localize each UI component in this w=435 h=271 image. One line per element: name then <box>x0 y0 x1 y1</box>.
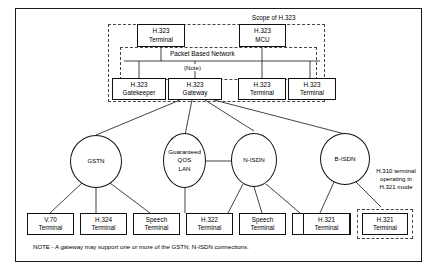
network-label-line2: QOS <box>178 156 192 164</box>
terminal-label-line1: H.321 <box>377 216 394 225</box>
terminal-label-line2: Terminal <box>315 224 339 233</box>
node-h323-terminal-top[interactable]: H.323 Terminal <box>137 24 185 47</box>
terminal-label-line2: Terminal <box>251 224 275 233</box>
terminal-label-line1: H.322 <box>201 216 218 225</box>
node-label-line2: Terminal <box>149 36 173 45</box>
node-h323-mcu[interactable]: H.323 MCU <box>239 24 286 47</box>
node-label-line2: Gateway <box>183 89 208 98</box>
node-label-line1: H.323 <box>254 81 271 90</box>
network-label-line1: GSTN <box>87 157 104 165</box>
terminal-label-line1: H.324 <box>95 216 112 225</box>
node-h323-gateway[interactable]: H.323 Gateway <box>168 78 222 100</box>
network-label-line1: N-ISDN <box>243 156 264 164</box>
network-b-isdn[interactable]: B-ISDN <box>320 133 370 185</box>
h310-annotation-label: H.310 terminal operating in H.321 mode <box>372 167 420 191</box>
terminal-h322[interactable]: H.322 Terminal <box>186 213 233 235</box>
node-label-line1: H.323 <box>153 27 170 36</box>
network-guaranteed-qos-lan[interactable]: Guaranteed QOS LAN <box>163 133 206 188</box>
terminal-label-line2: Terminal <box>198 224 222 233</box>
node-label-line2: MCU <box>255 36 269 45</box>
h323-scope-diagram: Scope of H.323 Packet Based Network (Not… <box>0 0 435 271</box>
terminal-v70[interactable]: V.70 Terminal <box>27 213 74 235</box>
terminal-h321-h310-mode[interactable]: H.321 Terminal <box>362 213 408 235</box>
scope-of-h323-label: Scope of H.323 <box>252 14 295 22</box>
terminal-label-line1: V.70 <box>44 216 56 225</box>
terminal-label-line2: Terminal <box>92 224 116 233</box>
network-label-line1: Guaranteed <box>168 148 201 156</box>
node-label-line1: H.323 <box>304 81 321 90</box>
node-label-line2: Terminal <box>250 89 274 98</box>
terminal-h321-bisdn-1[interactable]: H.321 Terminal <box>303 213 350 235</box>
network-label-line3: LAN <box>178 165 190 173</box>
node-h323-terminal-2[interactable]: H.323 Terminal <box>238 78 286 100</box>
node-label-line1: H.323 <box>131 81 148 90</box>
note-reference-tag: (Note) <box>183 64 202 71</box>
node-label-line1: H.323 <box>254 27 271 36</box>
terminal-label-line2: Terminal <box>145 224 169 233</box>
packet-based-network-label: Packet Based Network <box>168 50 237 57</box>
terminal-label-line1: H.321 <box>318 216 335 225</box>
terminal-label-line2: Terminal <box>373 224 397 233</box>
terminal-label-line2: Terminal <box>39 224 63 233</box>
node-label-line1: H.323 <box>187 81 204 90</box>
terminal-h324[interactable]: H.324 Terminal <box>80 213 127 235</box>
terminal-label-line1: Speech <box>252 216 273 225</box>
terminal-speech-gstn[interactable]: Speech Terminal <box>133 213 180 235</box>
network-label-line1: B-ISDN <box>335 155 356 163</box>
node-h323-gatekeeper[interactable]: H.323 Gatekeeper <box>112 78 166 100</box>
terminal-speech-nisdn[interactable]: Speech Terminal <box>239 213 286 235</box>
network-n-isdn[interactable]: N-ISDN <box>231 133 277 187</box>
node-label-line2: Terminal <box>300 89 324 98</box>
node-label-line2: Gatekeeper <box>123 89 156 98</box>
terminal-label-line1: Speech <box>146 216 167 225</box>
node-h323-terminal-3[interactable]: H.323 Terminal <box>288 78 336 100</box>
figure-note-text: NOTE - A gateway may support one or more… <box>33 243 249 250</box>
network-gstn[interactable]: GSTN <box>70 135 122 188</box>
